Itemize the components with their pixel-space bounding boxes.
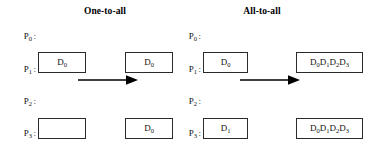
process-label-index: 2 xyxy=(194,100,197,107)
data-index: 3 xyxy=(346,127,349,134)
process-label-index: 3 xyxy=(29,132,32,139)
process-label-p1: P1: xyxy=(181,59,201,82)
process-label-colon: : xyxy=(33,31,36,41)
source-buffer-box: D0 xyxy=(203,52,248,73)
process-label-index: 0 xyxy=(194,35,197,42)
process-label-colon: : xyxy=(33,128,36,138)
panel-title-one-to-all: One-to-all xyxy=(63,6,147,16)
process-label-p0: P0: xyxy=(16,26,36,49)
broadcast-arrow-icon xyxy=(78,74,138,86)
process-label-index: 1 xyxy=(29,68,32,75)
data-index: 0 xyxy=(64,61,67,68)
data-index: 1 xyxy=(227,127,230,134)
source-buffer-box-empty xyxy=(38,118,86,139)
process-label-colon: : xyxy=(198,64,201,74)
dest-buffer-box: D0 xyxy=(125,118,173,139)
process-label-index: 0 xyxy=(29,35,32,42)
panel-title-all-to-all: All-to-all xyxy=(222,6,302,16)
source-buffer-box: D0 xyxy=(38,52,86,73)
data-index: 0 xyxy=(227,61,230,68)
process-label-p3: P3: xyxy=(181,123,201,146)
allgather-arrow-icon xyxy=(240,74,300,86)
process-label-index: 3 xyxy=(194,132,197,139)
data-index: 0 xyxy=(151,61,154,68)
dest-buffer-box: D0D1D2D3 xyxy=(296,118,363,139)
process-label-colon: : xyxy=(198,128,201,138)
process-label-index: 2 xyxy=(29,100,32,107)
process-label-colon: : xyxy=(33,64,36,74)
process-label-p1: P1: xyxy=(16,59,36,82)
source-buffer-box: D1 xyxy=(203,118,248,139)
process-label-index: 1 xyxy=(194,68,197,75)
data-index: 3 xyxy=(346,61,349,68)
data-index: 0 xyxy=(151,127,154,134)
process-label-p3: P3: xyxy=(16,123,36,146)
process-label-p2: P2: xyxy=(181,91,201,114)
process-label-colon: : xyxy=(198,96,201,106)
dest-buffer-box: D0 xyxy=(125,52,173,73)
collective-communication-figure: One-to-all All-to-all P0: D0 D0 P1: D0 P… xyxy=(0,0,371,150)
process-label-colon: : xyxy=(198,31,201,41)
process-label-p0: P0: xyxy=(181,26,201,49)
process-label-colon: : xyxy=(33,96,36,106)
dest-buffer-box: D0D1D2D3 xyxy=(296,52,363,73)
process-label-p2: P2: xyxy=(16,91,36,114)
